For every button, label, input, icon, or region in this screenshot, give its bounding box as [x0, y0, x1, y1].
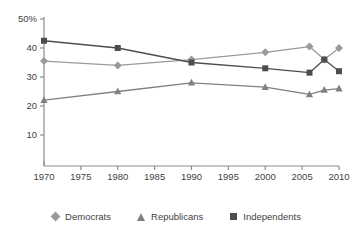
- legend-item-democrats[interactable]: Democrats: [51, 212, 111, 222]
- triangle-marker-icon: [137, 212, 146, 221]
- data-point-marker: [321, 57, 327, 63]
- diamond-marker-icon: [51, 212, 60, 221]
- square-marker-icon: [229, 212, 238, 221]
- y-axis-tick-label: 10: [26, 129, 37, 140]
- line-chart: 1020304050% 1970197519801985199019952000…: [0, 0, 352, 227]
- y-axis: 1020304050%: [18, 13, 44, 166]
- y-axis-tick-label: 40: [26, 42, 37, 53]
- legend-item-republicans[interactable]: Republicans: [137, 212, 203, 222]
- x-axis-ticks: 197019751980198519901995200020052010: [33, 161, 349, 182]
- data-point-marker: [336, 68, 342, 74]
- x-axis-tick-label: 1985: [144, 171, 165, 182]
- data-point-marker: [41, 38, 47, 44]
- x-axis-tick-label: 1980: [107, 171, 128, 182]
- y-axis-tick-label: 20: [26, 100, 37, 111]
- chart-legend: DemocratsRepublicansIndependents: [0, 212, 352, 222]
- x-axis-tick-label: 2005: [292, 171, 313, 182]
- x-axis-tick-label: 1990: [181, 171, 202, 182]
- data-point-marker: [262, 65, 268, 71]
- data-point-marker: [261, 48, 269, 56]
- x-axis-tick-label: 1970: [33, 171, 54, 182]
- y-axis-ticks: 1020304050%: [18, 13, 44, 140]
- series-republicans: [40, 79, 342, 103]
- legend-item-independents[interactable]: Independents: [229, 212, 301, 222]
- data-point-marker: [188, 79, 195, 86]
- data-point-marker: [115, 45, 121, 51]
- y-axis-tick-label: 50%: [18, 13, 38, 24]
- x-axis-tick-label: 1995: [218, 171, 239, 182]
- chart-plot-area: 1020304050% 1970197519801985199019952000…: [0, 0, 352, 227]
- x-axis-tick-label: 2010: [328, 171, 349, 182]
- legend-item-label: Democrats: [65, 212, 111, 222]
- data-point-marker: [335, 85, 342, 92]
- x-axis-tick-label: 2000: [255, 171, 276, 182]
- data-series-group: [40, 38, 343, 103]
- data-point-marker: [189, 60, 195, 66]
- x-axis-tick-label: 1975: [70, 171, 91, 182]
- legend-item-label: Independents: [243, 212, 301, 222]
- data-point-marker: [307, 70, 313, 76]
- x-axis: 197019751980198519901995200020052010: [33, 161, 349, 182]
- legend-item-label: Republicans: [151, 212, 203, 222]
- y-axis-tick-label: 30: [26, 71, 37, 82]
- data-point-marker: [114, 61, 122, 69]
- data-point-marker: [40, 57, 48, 65]
